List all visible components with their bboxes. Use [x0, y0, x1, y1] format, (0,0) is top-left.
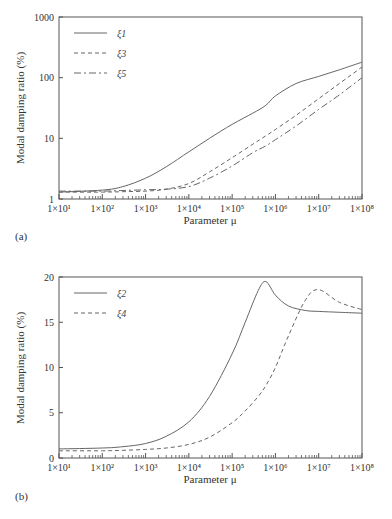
y-tick-label: 10	[44, 362, 54, 373]
y-tick-label: 5	[49, 407, 54, 418]
x-tick-label: 1×10²	[90, 462, 114, 473]
x-tick-label: 1×10³	[134, 203, 158, 214]
y-tick-label: 100	[39, 72, 54, 83]
y-tick-label: 1000	[34, 12, 54, 23]
x-tick-label: 1×10⁴	[177, 203, 202, 214]
y-tick-label: 20	[44, 272, 54, 283]
plot-frame-b	[59, 277, 362, 458]
x-tick-label: 1×10⁴	[177, 462, 202, 473]
x-tick-label: 1×10⁶	[263, 462, 288, 473]
y-tick-label: 10	[44, 133, 54, 144]
x-axis-title-a: Parameter μ	[183, 214, 236, 226]
y-axis-title-a: Modal damping ratio (%)	[14, 52, 27, 164]
y-axis-title-b: Modal damping ratio (%)	[14, 312, 27, 424]
legend-label: ξ5	[117, 68, 126, 80]
figure: 1101001000 1×10¹1×10²1×10³1×10⁴1×10⁵1×10…	[0, 0, 392, 519]
data-lines-b	[59, 281, 362, 450]
y-tick-labels-b: 05101520	[44, 272, 54, 464]
axis-ticks-b	[59, 277, 362, 458]
x-axis-title-b: Parameter μ	[183, 473, 236, 485]
data-lines-a	[59, 62, 362, 192]
series-line-ξ3	[59, 67, 362, 192]
x-tick-label: 1×10³	[134, 462, 158, 473]
legend-label: ξ3	[117, 48, 126, 60]
chart-panel-b: 05101520 1×10¹1×10²1×10³1×10⁴1×10⁵1×10⁶1…	[14, 272, 375, 504]
chart-panel-a: 1101001000 1×10¹1×10²1×10³1×10⁴1×10⁵1×10…	[14, 12, 375, 244]
x-tick-label: 1×10⁶	[263, 203, 288, 214]
x-tick-label: 1×10²	[90, 203, 114, 214]
panel-label-b: (b)	[15, 490, 28, 503]
legend-a: ξ1ξ3ξ5	[74, 28, 126, 80]
legend-label: ξ4	[117, 308, 126, 320]
x-tick-label: 1×10⁸	[350, 462, 375, 473]
x-tick-labels-b: 1×10¹1×10²1×10³1×10⁴1×10⁵1×10⁶1×10⁷1×10⁸	[47, 462, 374, 473]
series-line-ξ4	[59, 290, 362, 451]
series-line-ξ5	[59, 78, 362, 191]
y-tick-label: 15	[44, 317, 54, 328]
x-tick-label: 1×10⁸	[350, 203, 375, 214]
panel-label-a: (a)	[15, 230, 28, 243]
x-tick-label: 1×10¹	[47, 203, 71, 214]
x-tick-label: 1×10⁵	[220, 462, 244, 473]
x-tick-label: 1×10⁷	[307, 203, 332, 214]
series-line-ξ1	[59, 62, 362, 192]
x-tick-label: 1×10⁵	[220, 203, 244, 214]
x-tick-labels-a: 1×10¹1×10²1×10³1×10⁴1×10⁵1×10⁶1×10⁷1×10⁸	[47, 203, 374, 214]
x-tick-label: 1×10¹	[47, 462, 71, 473]
y-tick-labels-a: 1101001000	[34, 12, 54, 205]
series-line-ξ2	[59, 281, 362, 448]
legend-label: ξ2	[117, 288, 126, 300]
x-tick-label: 1×10⁷	[307, 462, 332, 473]
legend-label: ξ1	[117, 28, 126, 40]
legend-b: ξ2ξ4	[74, 288, 126, 320]
